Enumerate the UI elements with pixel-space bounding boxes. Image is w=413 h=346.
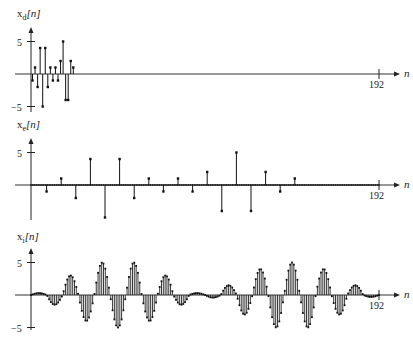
stem-plot-figure: 192n5−5xd[n]192n5xe[n]192n5−5xi[n]	[0, 0, 413, 346]
y-axis-arrow-icon	[29, 248, 34, 254]
panel-1: 192n5−5xd[n]	[11, 7, 410, 113]
y-axis-label: xd[n]	[17, 7, 41, 22]
y-axis-label: xe[n]	[17, 118, 40, 133]
x-axis-label: n	[404, 288, 410, 300]
y-axis-arrow-icon	[29, 138, 34, 144]
x-axis-arrow-icon	[394, 293, 400, 298]
end-tick-label: 192	[369, 79, 384, 90]
panel-2: 192n5xe[n]	[15, 118, 410, 220]
stems-xd	[31, 40, 74, 107]
x-axis-arrow-icon	[394, 183, 400, 188]
tick-pos-label: 5	[17, 37, 22, 48]
x-axis-label: n	[404, 67, 410, 79]
tick-pos-label: 5	[17, 148, 22, 159]
tick-neg-label: −5	[11, 102, 22, 113]
end-tick-label: 192	[369, 300, 384, 311]
x-axis-arrow-icon	[394, 72, 400, 77]
tick-pos-label: 5	[17, 258, 22, 269]
end-tick-label: 192	[369, 190, 384, 201]
tick-neg-label: −5	[11, 323, 22, 334]
y-axis-label: xi[n]	[17, 230, 39, 245]
x-axis-label: n	[404, 178, 410, 190]
y-axis-arrow-icon	[29, 27, 34, 33]
